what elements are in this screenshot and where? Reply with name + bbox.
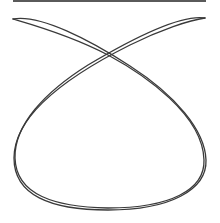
curve-pass-1 xyxy=(13,18,206,210)
lissajous-curve xyxy=(0,0,220,223)
curve-pass-2 xyxy=(13,18,205,208)
